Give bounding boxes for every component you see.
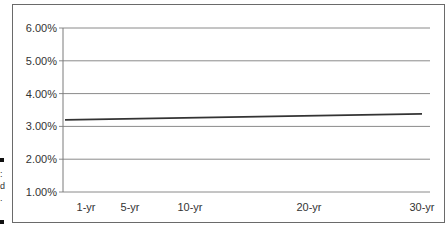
x-tick-label: 10-yr [177, 201, 202, 213]
y-tick-label: 5.00% [26, 55, 57, 67]
y-tick-label: 6.00% [26, 22, 57, 34]
x-tick-label: 20-yr [296, 201, 321, 213]
y-tick-labels: 1.00%2.00%3.00%4.00%5.00%6.00% [26, 22, 57, 198]
x-tick-label: 1-yr [77, 201, 96, 213]
x-tick-label: 30-yr [409, 201, 434, 213]
x-tick-label: 5-yr [121, 201, 140, 213]
y-tick-label: 3.00% [26, 120, 57, 132]
y-tick-label: 4.00% [26, 88, 57, 100]
series-group [65, 114, 422, 120]
series-line [65, 114, 422, 120]
y-tick-label: 2.00% [26, 153, 57, 165]
line-chart: 1.00%2.00%3.00%4.00%5.00%6.00% 1-yr5-yr1… [0, 0, 447, 228]
y-tick-label: 1.00% [26, 186, 57, 198]
x-tick-labels: 1-yr5-yr10-yr20-yr30-yr [77, 201, 435, 213]
gridlines [59, 28, 430, 192]
